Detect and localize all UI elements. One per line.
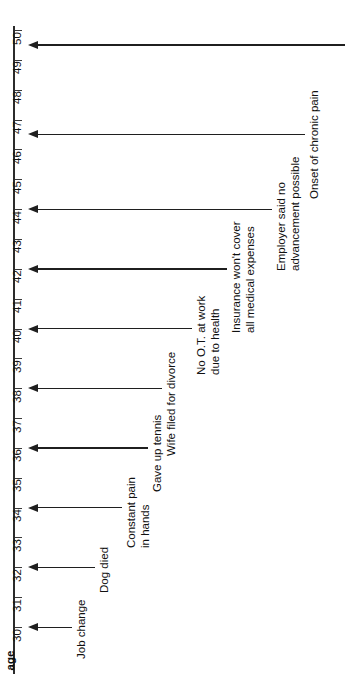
axis-tick-label: 43	[11, 230, 24, 264]
axis-tick-label: 46	[11, 140, 24, 174]
event-label: No O.T. at workdue to health	[195, 296, 222, 375]
event-label: Onset of chronic pain	[308, 90, 322, 199]
event-label-line: Constant pain	[125, 477, 139, 548]
event-label-line: Insurance won't cover	[230, 222, 244, 334]
axis-tick-label: 31	[11, 588, 24, 622]
event-arrow-shaft	[36, 268, 227, 269]
event-arrow-head	[28, 504, 38, 512]
axis-tick-label: 50	[11, 21, 24, 55]
event-label-line: Employer said no	[275, 156, 289, 270]
event-label-line: due to health	[209, 296, 223, 375]
axis-tick-label: 33	[11, 528, 24, 562]
event-arrow-shaft	[36, 388, 162, 389]
event-arrow-shaft	[36, 447, 148, 448]
axis-name-label: age	[4, 644, 17, 678]
event-arrow-shaft	[36, 567, 95, 568]
axis-tick-label: 40	[11, 320, 24, 354]
event-label-line: in hands	[139, 477, 153, 548]
axis-tick-label: 39	[11, 349, 24, 383]
event-arrow-head	[28, 41, 38, 49]
event-label: Dog died	[98, 547, 112, 593]
event-arrow-head	[28, 130, 38, 138]
event-label-line: Dog died	[98, 547, 112, 593]
event-label: Employer said noadvancement possible	[275, 156, 302, 270]
axis-tick-label: 41	[11, 290, 24, 324]
axis-tick-label: 36	[11, 439, 24, 473]
event-label-line: Gave up tennis	[151, 414, 165, 491]
axis-tick-label: 34	[11, 499, 24, 533]
axis-tick-label: 35	[11, 469, 24, 503]
axis-tick-label: 37	[11, 409, 24, 443]
event-arrow-shaft	[36, 507, 122, 508]
axis-tick-label: 42	[11, 260, 24, 294]
event-label-line: No O.T. at work	[195, 296, 209, 375]
event-label: Insurance won't coverall medical expense…	[230, 222, 257, 334]
event-label: Wife filed for divorce	[165, 351, 179, 455]
event-arrow-shaft	[36, 627, 72, 628]
event-arrow-head	[28, 563, 38, 571]
axis-tick-label: 47	[11, 111, 24, 145]
event-arrow-shaft	[36, 44, 345, 45]
axis-tick-label: 49	[11, 51, 24, 85]
event-arrow-head	[28, 623, 38, 631]
event-arrow-head	[28, 265, 38, 273]
event-arrow-shaft	[36, 209, 272, 210]
event-arrow-head	[28, 205, 38, 213]
axis-tick-label: 38	[11, 379, 24, 413]
event-arrow-shaft	[36, 134, 305, 135]
event-arrow-head	[28, 444, 38, 452]
axis-tick-label: 32	[11, 558, 24, 592]
event-label: Constant painin hands	[125, 477, 152, 548]
event-arrow-shaft	[36, 328, 192, 329]
event-label-line: Job change	[75, 599, 89, 658]
life-events-timeline-chart: 3031323334353637383940414243444546474849…	[0, 0, 348, 685]
event-label-line: Onset of chronic pain	[308, 90, 322, 199]
event-label-line: all medical expenses	[244, 222, 258, 334]
event-label: Job change	[75, 599, 89, 658]
event-label-line: advancement possible	[289, 156, 303, 270]
event-label-line: Wife filed for divorce	[165, 351, 179, 455]
event-label: Gave up tennis	[151, 414, 165, 491]
event-arrow-head	[28, 325, 38, 333]
event-arrow-head	[28, 384, 38, 392]
axis-tick-label: 45	[11, 170, 24, 204]
axis-tick-label: 48	[11, 81, 24, 115]
axis-tick-label: 44	[11, 200, 24, 234]
